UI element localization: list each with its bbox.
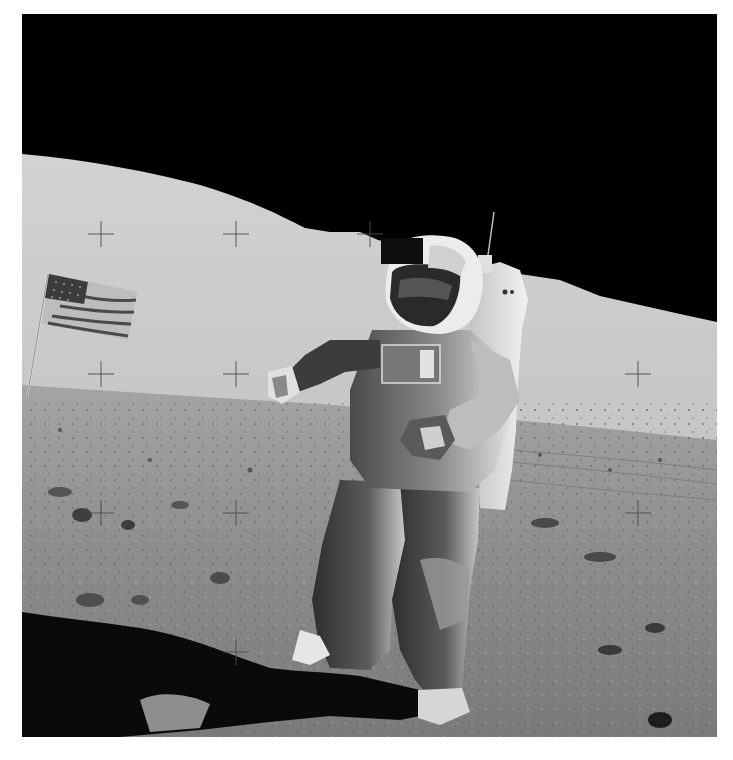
lunar-photograph — [22, 14, 717, 737]
visor-shade — [381, 238, 423, 264]
photo-canvas — [22, 14, 717, 737]
sunlit-patch — [140, 694, 210, 732]
